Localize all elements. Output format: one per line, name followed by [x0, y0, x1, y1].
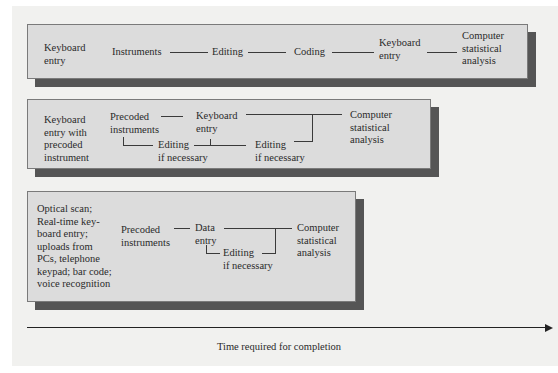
row-3-method-line: Optical scan; [37, 203, 112, 216]
step-line: Keyboard [379, 37, 420, 50]
row-2-step-editing-1: Editing if necessary [158, 139, 208, 164]
row-3-method-line: Real-time key- [37, 216, 112, 229]
step-line: Precoded [121, 224, 170, 237]
row-3-method-line: voice recognition [37, 278, 112, 291]
connector [210, 139, 211, 145]
connector [427, 52, 457, 53]
step-line: entry [379, 50, 420, 63]
row-2-step-keyboard-entry: Keyboard entry [196, 110, 237, 135]
step-line: if necessary [255, 152, 305, 165]
row-1-step-coding: Coding [294, 46, 325, 59]
step-line: Editing [255, 139, 305, 152]
connector [194, 145, 246, 146]
connector [332, 52, 374, 53]
time-axis-label: Time required for completion [0, 341, 558, 352]
row-2-step-computer-analysis: Computer statistical analysis [350, 109, 392, 147]
step-line: statistical [462, 43, 504, 56]
step-line: Precoded [110, 111, 159, 124]
row-1-step-keyboard-entry: Keyboard entry [379, 37, 420, 62]
row-3-step-precoded-instruments: Precoded instruments [121, 224, 170, 249]
connector [206, 253, 220, 254]
connector [174, 228, 190, 229]
row-3-step-computer-analysis: Computer statistical analysis [297, 222, 339, 260]
step-line: analysis [350, 134, 392, 147]
connector [161, 116, 183, 117]
row-2-step-editing-2: Editing if necessary [255, 139, 305, 164]
row-1-step-instruments: Instruments [112, 46, 162, 59]
step-line: analysis [297, 247, 339, 260]
connector [312, 114, 313, 142]
row-3-method-line: uploads from [37, 241, 112, 254]
row-3-method-line: PCs, telephone [37, 253, 112, 266]
step-line: entry [196, 123, 237, 136]
row-3-step-data-entry: Data entry [195, 222, 217, 247]
step-line: if necessary [223, 260, 273, 273]
row-1-method: Keyboard entry [44, 42, 85, 67]
row-2-method: Keyboard entry with precoded instrument [44, 114, 89, 164]
time-axis-line [27, 327, 547, 328]
arrow-right-icon [545, 324, 553, 332]
connector [246, 114, 342, 115]
connector [170, 52, 208, 53]
step-line: analysis [462, 55, 504, 68]
step-line: Computer [462, 30, 504, 43]
row-3-method-line: board entry; [37, 228, 112, 241]
step-line: statistical [350, 122, 392, 135]
row-1-step-editing: Editing [212, 46, 243, 59]
step-line: Computer [350, 109, 392, 122]
row-3-step-editing: Editing if necessary [223, 247, 273, 272]
row-2-method-line: precoded [44, 139, 89, 152]
step-line: if necessary [158, 152, 208, 165]
row-2-method-line: instrument [44, 152, 89, 165]
row-2-method-line: entry with [44, 127, 89, 140]
step-line: Data [195, 222, 217, 235]
connector [275, 228, 276, 253]
connector [224, 228, 292, 229]
row-1-step-computer-analysis: Computer statistical analysis [462, 30, 504, 68]
step-line: Computer [297, 222, 339, 235]
step-line: instruments [121, 237, 170, 250]
row-1-method-line: entry [44, 55, 85, 68]
row-2-step-precoded-instruments: Precoded instruments [110, 111, 159, 136]
step-line: Keyboard [196, 110, 237, 123]
connector [248, 52, 286, 53]
step-line: instruments [110, 124, 159, 137]
row-3-method-line: keypad; bar code; [37, 266, 112, 279]
step-line: statistical [297, 235, 339, 248]
row-1-method-line: Keyboard [44, 42, 85, 55]
row-3-method: Optical scan; Real-time key- board entry… [37, 203, 112, 291]
step-line: Editing [223, 247, 273, 260]
connector [123, 145, 153, 146]
row-2-method-line: Keyboard [44, 114, 89, 127]
